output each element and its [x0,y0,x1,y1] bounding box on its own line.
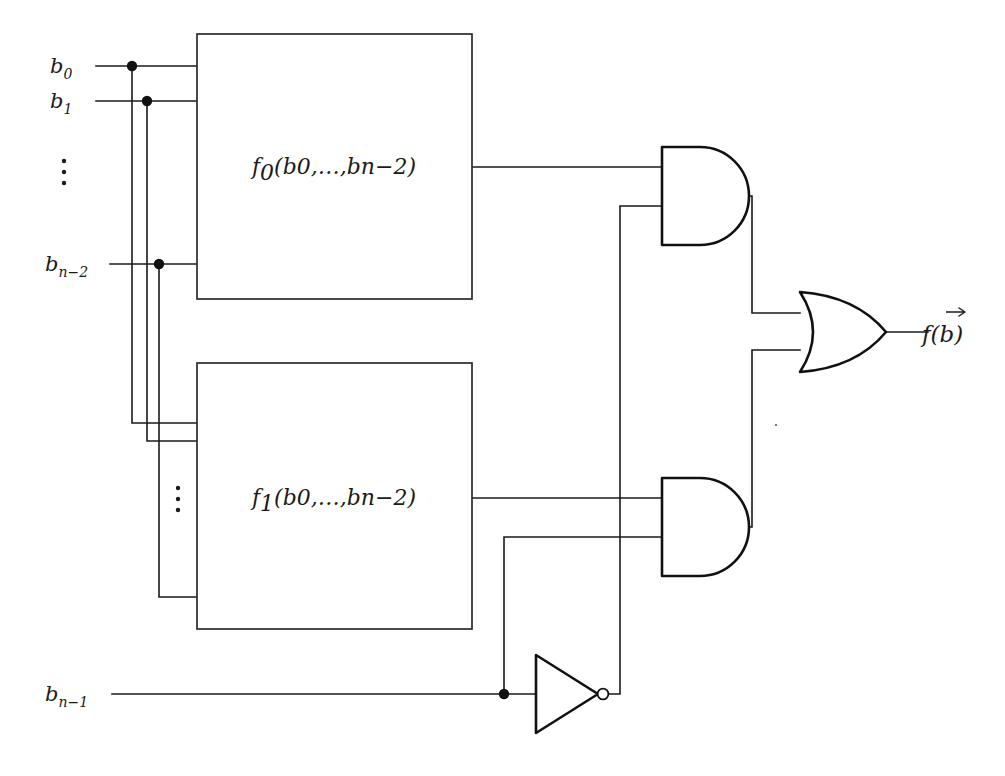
wire-bn2-to-f1 [159,264,197,597]
scan-speck [775,424,777,426]
input-label-bn1: bn−1 [45,682,88,710]
and-gate-bottom[interactable] [662,478,749,576]
input-ellipsis-left-icon [62,159,66,185]
input-label-b0: b0 [50,54,72,82]
ellipsis-layer [62,159,180,512]
gate-layer [536,147,886,733]
wire-b1-to-f1 [147,101,197,441]
or-gate[interactable] [800,292,886,372]
circuit-canvas: b0 b1 bn−2 bn−1 [0,0,1005,776]
wire-b0-to-f1 [132,66,197,423]
tap-bn1-junction [499,689,509,699]
input-label-b1: b1 [50,89,72,117]
and-gate-top[interactable] [662,147,749,245]
wire-not-out-to-and-top [607,206,662,694]
not-gate-bubble [598,689,609,700]
output-label: f(b) [920,321,963,347]
wire-and-top-to-or [742,196,800,313]
output-label-group: f(b) [920,308,965,347]
not-gate[interactable] [536,655,598,733]
wire-bn1-to-and-bottom [504,537,662,694]
input-ellipsis-block2-icon [176,486,180,512]
input-labels: b0 b1 bn−2 bn−1 [45,54,88,710]
input-label-bn2: bn−2 [45,252,88,280]
vector-arrow-icon [946,308,965,316]
tap-b1-junction [142,96,152,106]
tap-bn2-junction [154,259,164,269]
circuit-figure: b0 b1 bn−2 bn−1 [0,0,1005,776]
wire-and-bottom-to-or [742,350,800,527]
tap-b0-junction [127,61,137,71]
function-blocks [197,34,472,629]
